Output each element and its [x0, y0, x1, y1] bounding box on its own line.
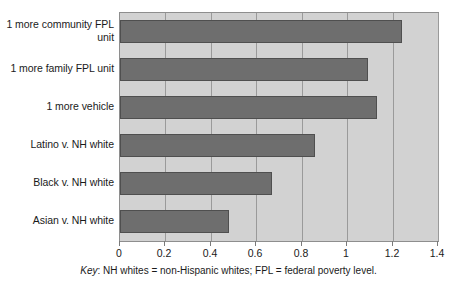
category-label: Latino v. NH white — [0, 138, 114, 151]
tick-mark — [164, 241, 165, 246]
tick-mark — [392, 241, 393, 246]
tick-mark — [301, 241, 302, 246]
tick-mark — [255, 241, 256, 246]
gridline — [438, 13, 439, 241]
bar — [120, 20, 402, 43]
tick-label: 1 — [343, 247, 349, 259]
category-label: 1 more community FPL unit — [0, 18, 114, 43]
tick-label: 0.8 — [294, 247, 309, 259]
tick-label: 1.4 — [430, 247, 445, 259]
tick-mark — [119, 241, 120, 246]
category-label: 1 more vehicle — [0, 100, 114, 113]
chart-key-caption: Key: NH whites = non-Hispanic whites; FP… — [0, 264, 457, 277]
value-axis: 00.20.40.60.811.21.4 — [119, 241, 438, 263]
gridline — [393, 13, 394, 241]
category-label: 1 more family FPL unit — [0, 62, 114, 75]
key-text: NH whites = non-Hispanic whites; FPL = f… — [100, 265, 376, 276]
tick-label: 0.4 — [203, 247, 218, 259]
bar — [120, 210, 229, 233]
bar — [120, 96, 377, 119]
gridline — [347, 13, 348, 241]
category-axis: 1 more community FPL unit 1 more family … — [0, 12, 114, 240]
tick-label: 0 — [116, 247, 122, 259]
category-label: Black v. NH white — [0, 176, 114, 189]
bar-chart-figure: 1 more community FPL unit 1 more family … — [0, 0, 457, 290]
category-label: Asian v. NH white — [0, 214, 114, 227]
gridline — [302, 13, 303, 241]
gridline — [165, 13, 166, 241]
plot-area — [119, 12, 439, 242]
bar — [120, 172, 272, 195]
tick-mark — [210, 241, 211, 246]
tick-label: 0.6 — [248, 247, 263, 259]
gridline — [211, 13, 212, 241]
bar — [120, 58, 368, 81]
tick-label: 1.2 — [385, 247, 400, 259]
tick-mark — [346, 241, 347, 246]
tick-mark — [437, 241, 438, 246]
gridline — [256, 13, 257, 241]
key-word: Key — [80, 265, 97, 276]
bar — [120, 134, 315, 157]
tick-label: 0.2 — [157, 247, 172, 259]
